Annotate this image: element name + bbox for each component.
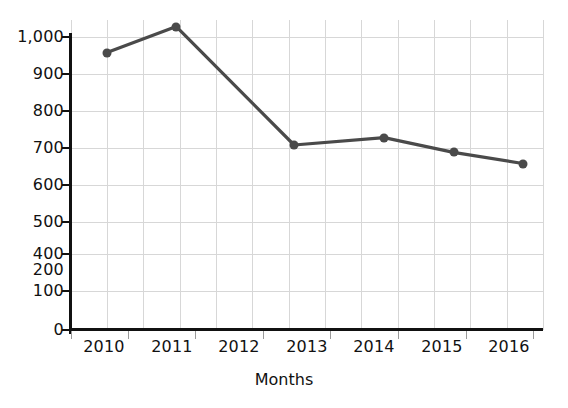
data-point-marker — [103, 48, 112, 57]
data-point-marker — [518, 159, 527, 168]
data-point-marker — [380, 133, 389, 142]
data-series-line — [0, 0, 568, 408]
data-point-marker — [172, 22, 181, 31]
line-chart: 1,000 900 800 700 600 500 400 200 100 0 … — [0, 0, 568, 408]
data-point-marker — [449, 148, 458, 157]
x-axis-title: Months — [0, 370, 568, 389]
data-point-marker — [290, 141, 299, 150]
